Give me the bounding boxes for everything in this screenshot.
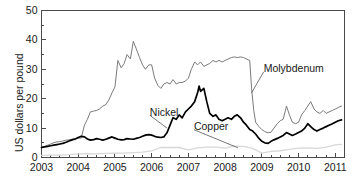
- series-line-copper: [42, 144, 342, 155]
- chart-plot-area: [0, 0, 353, 183]
- annotation-molybdenum: Molybdenum: [264, 62, 324, 74]
- x-tick-label-2004: 2004: [60, 161, 96, 173]
- axis-frame: [42, 11, 345, 158]
- x-tick-label-2010: 2010: [281, 161, 317, 173]
- y-tick-label-50: 50: [16, 4, 38, 16]
- y-tick-label-10: 10: [16, 122, 38, 134]
- x-tick-label-2009: 2009: [244, 161, 280, 173]
- data-series-group: [42, 41, 342, 155]
- annotation-copper: Copper: [194, 120, 228, 132]
- y-tick-label-20: 20: [16, 92, 38, 104]
- price-chart: US dollars per pound 2003200420052006200…: [0, 0, 353, 183]
- y-tick-label-30: 30: [16, 63, 38, 75]
- series-line-molybdenum: [42, 41, 342, 147]
- leader-line-copper: [194, 130, 238, 148]
- x-tick-label-2005: 2005: [97, 161, 133, 173]
- y-tick-label-40: 40: [16, 33, 38, 45]
- axis-ticks: [42, 11, 345, 158]
- x-tick-label-2006: 2006: [134, 161, 170, 173]
- y-tick-label-0: 0: [16, 151, 38, 163]
- leader-line-molybdenum: [252, 72, 264, 93]
- series-line-nickel: [42, 86, 342, 147]
- annotation-nickel: Nickel: [150, 106, 179, 118]
- x-tick-label-2011: 2011: [317, 161, 353, 173]
- x-tick-label-2008: 2008: [207, 161, 243, 173]
- x-tick-label-2007: 2007: [170, 161, 206, 173]
